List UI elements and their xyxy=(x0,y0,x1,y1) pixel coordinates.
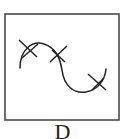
diagram-figure: D xyxy=(0,0,125,139)
cross-mark-1 xyxy=(19,40,37,57)
figure-label: D xyxy=(0,121,125,139)
cross-marks xyxy=(19,40,106,90)
cross-mark-2 xyxy=(52,50,65,62)
